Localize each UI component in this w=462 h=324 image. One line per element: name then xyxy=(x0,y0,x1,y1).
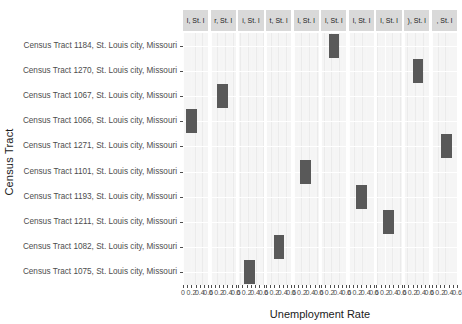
x-axis-tick xyxy=(266,285,267,288)
facet-strip: l, St. l xyxy=(321,10,346,31)
x-axis-tick xyxy=(310,285,311,288)
x-axis-tick-minor xyxy=(325,285,326,288)
gridline-horizontal xyxy=(432,247,457,248)
y-axis-label: Census Tract 1184, St. Louis city, Misso… xyxy=(24,40,178,52)
gridline-horizontal xyxy=(321,146,346,147)
facet-panel xyxy=(376,33,401,285)
x-axis-tick xyxy=(440,285,441,288)
x-axis-tick-minor xyxy=(259,285,260,288)
x-axis-label: 0 xyxy=(319,289,323,296)
gridline-horizontal xyxy=(349,96,374,97)
facet-strip-label: t, St. l xyxy=(270,17,288,24)
x-axis-tick xyxy=(457,285,458,288)
x-axis-tick xyxy=(404,285,405,288)
bar[interactable] xyxy=(413,59,424,83)
facet-strip: l, St. l xyxy=(294,10,319,31)
bar[interactable] xyxy=(356,185,367,209)
gridline-horizontal xyxy=(294,146,319,147)
gridline-horizontal xyxy=(404,272,429,273)
x-axis-tick xyxy=(219,285,220,288)
x-axis-tick xyxy=(413,285,414,288)
gridline-horizontal xyxy=(294,71,319,72)
gridline-horizontal xyxy=(211,197,236,198)
gridline-horizontal xyxy=(211,146,236,147)
gridline-horizontal xyxy=(432,121,457,122)
x-axis-tick-minor xyxy=(223,285,224,288)
x-axis-label: 0 xyxy=(375,289,379,296)
x-axis-tick-minor xyxy=(381,285,382,288)
gridline-horizontal xyxy=(238,71,263,72)
gridline-horizontal xyxy=(238,146,263,147)
gridline-horizontal xyxy=(349,222,374,223)
x-axis-tick xyxy=(402,285,403,288)
gridline-horizontal xyxy=(321,172,346,173)
gridline-horizontal xyxy=(432,197,457,198)
facet-panel xyxy=(321,33,346,285)
x-axis-label: 0.6 xyxy=(452,289,462,296)
x-axis-label: 0 xyxy=(181,289,185,296)
gridline-horizontal xyxy=(211,272,236,273)
x-axis-tick xyxy=(283,285,284,288)
gridline-horizontal xyxy=(183,46,208,47)
gridline-horizontal xyxy=(266,172,291,173)
facet-strip: t, St. l xyxy=(266,10,291,31)
x-axis-tick xyxy=(449,285,450,288)
gridline-horizontal xyxy=(376,121,401,122)
facet-panel xyxy=(294,33,319,285)
facet-strip: i, St. l xyxy=(238,10,263,31)
x-axis-tick xyxy=(432,285,433,288)
gridline-horizontal xyxy=(294,197,319,198)
gridline-horizontal xyxy=(404,46,429,47)
facet-strip: r, St. l xyxy=(211,10,236,31)
gridline-horizontal xyxy=(321,96,346,97)
y-axis-label: Census Tract 1067, St. Louis city, Misso… xyxy=(23,90,177,102)
x-axis-tick xyxy=(211,285,212,288)
x-axis-tick xyxy=(366,285,367,288)
bar[interactable] xyxy=(441,134,452,158)
gridline-horizontal xyxy=(349,46,374,47)
bar[interactable] xyxy=(186,109,197,133)
gridline-horizontal xyxy=(294,247,319,248)
x-axis-tick xyxy=(330,285,331,288)
gridline-horizontal xyxy=(266,197,291,198)
bar[interactable] xyxy=(300,160,311,184)
x-axis-tick xyxy=(274,285,275,288)
gridline-horizontal xyxy=(266,272,291,273)
bar[interactable] xyxy=(274,235,285,259)
bar[interactable] xyxy=(244,260,255,284)
gridline-horizontal xyxy=(376,96,401,97)
y-axis-label: Census Tract 1193, St. Louis city, Misso… xyxy=(24,191,178,203)
gridline-horizontal xyxy=(376,197,401,198)
x-axis-tick-minor xyxy=(251,285,252,288)
facet-strip-label: l, St. l xyxy=(297,17,315,24)
x-axis-label: 0 xyxy=(430,289,434,296)
gridline-horizontal xyxy=(349,172,374,173)
gridline-horizontal xyxy=(183,247,208,248)
x-axis-tick-minor xyxy=(361,285,362,288)
gridline-horizontal xyxy=(238,96,263,97)
x-axis-tick-minor xyxy=(353,285,354,288)
gridline-horizontal xyxy=(266,46,291,47)
gridline-horizontal xyxy=(404,121,429,122)
gridline-horizontal xyxy=(238,222,263,223)
gridline-horizontal xyxy=(376,272,401,273)
facet-strip: , St. l xyxy=(432,10,457,31)
gridline-horizontal xyxy=(321,222,346,223)
gridline-horizontal xyxy=(266,121,291,122)
gridline-horizontal xyxy=(404,172,429,173)
x-axis-tick xyxy=(338,285,339,288)
bar[interactable] xyxy=(383,210,394,234)
gridline-horizontal xyxy=(376,46,401,47)
gridline-horizontal xyxy=(432,96,457,97)
gridline-horizontal xyxy=(321,121,346,122)
x-axis-tick xyxy=(208,285,209,288)
bar[interactable] xyxy=(329,34,340,58)
y-axis-label: Census Tract 1075, St. Louis city, Misso… xyxy=(23,266,177,278)
gridline-horizontal xyxy=(238,247,263,248)
bar[interactable] xyxy=(217,84,228,108)
gridline-horizontal xyxy=(266,146,291,147)
x-axis-tick-minor xyxy=(187,285,188,288)
gridline-horizontal xyxy=(266,222,291,223)
gridline-horizontal xyxy=(321,272,346,273)
gridline-horizontal xyxy=(349,146,374,147)
